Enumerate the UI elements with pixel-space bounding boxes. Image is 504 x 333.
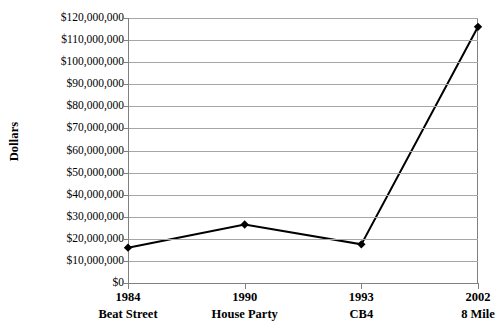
y-tick-label: $80,000,000 [26,101,124,113]
gridline [128,283,478,284]
y-tick-label: $50,000,000 [26,167,124,179]
y-tick-label: $100,000,000 [26,56,124,68]
data-point-marker [124,243,132,251]
gridline [128,239,478,240]
y-tick-mark [123,106,129,107]
x-tick-label-title: 8 Mile [461,306,495,323]
gridline [128,84,478,85]
y-tick-mark [123,18,129,19]
y-tick-label: $30,000,000 [26,211,124,223]
x-tick-label-title: House Party [212,306,278,323]
y-tick-mark [123,84,129,85]
gridline [128,151,478,152]
data-point-marker [474,23,482,31]
y-tick-label: $110,000,000 [26,34,124,46]
x-tick-label: 1990House Party [212,289,278,323]
y-tick-mark [123,239,129,240]
y-tick-label: $0 [26,277,124,289]
y-tick-mark [123,62,129,63]
x-tick-label: 1984Beat Street [98,289,157,323]
gridline [128,128,478,129]
x-tick-label-year: 1993 [349,289,374,306]
y-tick-mark [123,40,129,41]
y-tick-label: $40,000,000 [26,189,124,201]
y-tick-label: $10,000,000 [26,255,124,267]
x-tick-mark [128,283,129,289]
y-tick-mark [123,151,129,152]
plot-area [128,18,478,283]
y-tick-mark [123,261,129,262]
x-tick-mark [478,283,479,289]
gridline [128,261,478,262]
x-tick-label-year: 1984 [98,289,157,306]
y-tick-mark [123,217,129,218]
x-tick-label: 1993CB4 [349,289,374,323]
x-tick-mark [361,283,362,289]
x-tick-label-year: 1990 [212,289,278,306]
gridline [128,106,478,107]
line-chart: Dollars $0$10,000,000$20,000,000$30,000,… [0,0,504,333]
y-tick-label: $90,000,000 [26,79,124,91]
series-line [128,27,478,248]
y-axis-tick-labels: $0$10,000,000$20,000,000$30,000,000$40,0… [26,0,124,333]
data-point-marker [357,240,365,248]
y-tick-label: $120,000,000 [26,12,124,24]
gridline [128,217,478,218]
x-tick-label-title: Beat Street [98,306,157,323]
data-point-marker [240,220,248,228]
gridline [128,173,478,174]
y-axis-title-label: Dollars [8,122,23,162]
y-tick-label: $70,000,000 [26,123,124,135]
y-tick-mark [123,173,129,174]
x-tick-label: 20028 Mile [461,289,495,323]
y-tick-label: $60,000,000 [26,145,124,157]
gridline [128,195,478,196]
x-tick-label-title: CB4 [349,306,374,323]
x-axis-tick-labels: 1984Beat Street1990House Party1993CB4200… [0,289,504,333]
y-axis-title: Dollars [4,0,26,283]
y-tick-label: $20,000,000 [26,233,124,245]
gridline [128,40,478,41]
x-tick-mark [245,283,246,289]
gridline [128,18,478,19]
gridline [128,62,478,63]
y-tick-mark [123,195,129,196]
x-tick-label-year: 2002 [461,289,495,306]
y-tick-mark [123,128,129,129]
